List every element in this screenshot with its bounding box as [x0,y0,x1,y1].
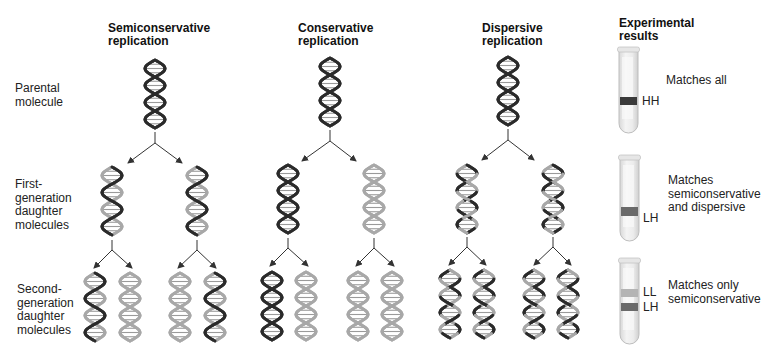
test-tube-3-icon [619,258,641,344]
replication-arrow-icon [178,240,216,268]
dna-helix-icon [524,270,544,338]
density-band [621,303,638,311]
dna-helix-icon [364,165,384,233]
band-label-lh: LH [643,211,658,225]
density-band [621,289,638,297]
dna-helix-icon [278,165,298,233]
note-line: semiconservative [668,293,761,307]
dna-helix-icon [474,270,494,338]
result-note-3: Matches only semiconservative [668,279,761,306]
dna-helix-icon [320,58,340,126]
dna-helix-icon [543,165,563,233]
result-note-2: Matches semiconservative and dispersive [668,174,761,215]
replication-arrow-icon [449,237,486,265]
note-line: semiconservative [668,188,761,202]
density-band [620,97,637,105]
note-line: Matches only [668,279,761,293]
result-note-1: Matches all [666,74,727,88]
replication-arrow-icon [534,237,571,265]
note-line: Matches all [666,74,727,88]
dna-helix-icon [170,273,190,341]
dna-helix-icon [85,273,105,341]
band-label-hh: HH [642,94,659,108]
dna-helix-icon [187,167,207,235]
dna-helix-icon [498,57,518,125]
replication-arrow-icon [356,238,394,266]
replication-arrow-icon [94,240,132,268]
dna-helix-icon [102,167,122,235]
band-label-lh-2: LH [643,300,658,314]
replication-arrow-icon [302,130,356,161]
dna-helix-icon [348,272,368,340]
density-band [621,207,638,216]
note-line: and dispersive [668,201,761,215]
test-tube-1-icon [618,47,640,133]
note-line: Matches [668,174,761,188]
dna-helix-icon [558,270,578,338]
dna-helix-icon [262,272,282,340]
dna-helix-icon [145,60,165,128]
dna-helix-icon [120,273,140,341]
dna-helix-icon [382,272,402,340]
replication-arrow-icon [128,132,182,163]
dna-helix-icon [457,165,477,233]
test-tube-2-icon [619,155,641,241]
dna-helix-icon [440,270,460,338]
dna-helix-icon [296,272,316,340]
dna-helix-icon [205,273,225,341]
replication-arrow-icon [482,129,534,160]
band-label-ll: LL [643,285,656,299]
replication-arrow-icon [270,238,308,266]
